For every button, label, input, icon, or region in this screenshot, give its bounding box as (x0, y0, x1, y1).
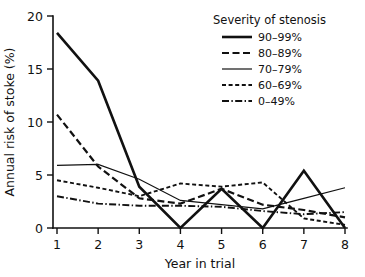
x-axis-ticks: 12345678 (53, 228, 349, 252)
x-axis-title: Year in trial (164, 256, 235, 271)
y-axis-title: Annual risk of stoke (%) (2, 48, 17, 197)
y-tick-label: 10 (27, 115, 43, 130)
x-tick-label: 8 (341, 237, 349, 252)
y-tick-label: 5 (35, 168, 43, 183)
x-tick-label: 5 (218, 237, 226, 252)
chart-container: 05101520 12345678 Year in trial Annual r… (0, 0, 365, 277)
y-tick-label: 20 (27, 9, 43, 24)
legend: Severity of stenosis 90–99%80–89%70–79%6… (213, 13, 326, 108)
legend-label-70-79%: 70–79% (258, 63, 302, 76)
legend-title: Severity of stenosis (213, 13, 326, 27)
legend-label-80-89%: 80–89% (258, 47, 302, 60)
series-line-70-79% (57, 164, 345, 209)
y-axis-ticks: 05101520 (27, 9, 53, 236)
x-tick-label: 7 (300, 237, 308, 252)
x-tick-label: 2 (94, 237, 102, 252)
x-tick-label: 3 (135, 237, 143, 252)
legend-label-0-49%: 0–49% (258, 95, 295, 108)
x-tick-label: 6 (259, 237, 267, 252)
x-tick-label: 1 (53, 237, 61, 252)
y-tick-label: 0 (35, 221, 43, 236)
legend-label-90-99%: 90–99% (258, 31, 302, 44)
line-chart: 05101520 12345678 Year in trial Annual r… (0, 0, 365, 277)
x-tick-label: 4 (176, 237, 184, 252)
legend-label-60-69%: 60–69% (258, 79, 302, 92)
y-tick-label: 15 (27, 62, 43, 77)
